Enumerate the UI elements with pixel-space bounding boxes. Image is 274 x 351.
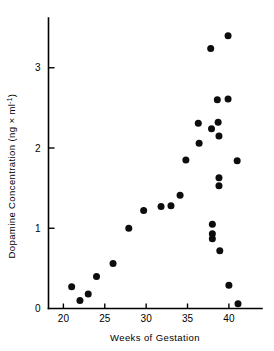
x-tick-label: 40 bbox=[223, 313, 235, 324]
data-point bbox=[140, 207, 147, 214]
axes-group bbox=[49, 18, 263, 309]
data-point bbox=[196, 140, 203, 147]
data-point bbox=[216, 247, 223, 254]
data-point bbox=[195, 120, 202, 127]
data-point bbox=[68, 283, 75, 290]
data-point bbox=[215, 132, 222, 139]
x-tick-label: 25 bbox=[99, 313, 111, 324]
data-point bbox=[158, 203, 165, 210]
data-point bbox=[125, 225, 132, 232]
data-point bbox=[209, 221, 216, 228]
data-point bbox=[235, 300, 242, 307]
x-tick-group: 2025303540 bbox=[58, 304, 235, 324]
y-tick-label: 2 bbox=[35, 143, 41, 154]
x-tick-label: 20 bbox=[58, 313, 70, 324]
y-axis-title-main: Dopamine Concentration (ng × ml bbox=[6, 104, 17, 259]
data-point bbox=[85, 291, 92, 298]
data-point bbox=[225, 96, 232, 103]
x-tick-label: 30 bbox=[141, 313, 153, 324]
data-point bbox=[225, 282, 232, 289]
data-point bbox=[234, 157, 241, 164]
data-point bbox=[208, 125, 215, 132]
chart-canvas: 2025303540 0123 Weeks of Gestation Dopam… bbox=[0, 0, 274, 351]
scatter-plot-figure: 2025303540 0123 Weeks of Gestation Dopam… bbox=[0, 0, 274, 351]
data-point bbox=[214, 96, 221, 103]
data-point bbox=[215, 174, 222, 181]
data-point bbox=[167, 202, 174, 209]
y-tick-label: 1 bbox=[35, 223, 41, 234]
y-tick-group: 0123 bbox=[35, 62, 55, 314]
data-point bbox=[110, 260, 117, 267]
data-point bbox=[177, 192, 184, 199]
x-axis-title: Weeks of Gestation bbox=[110, 332, 200, 343]
y-axis-title: Dopamine Concentration (ng × ml-1) bbox=[6, 94, 17, 259]
y-axis-title-close: ) bbox=[6, 94, 17, 98]
data-point bbox=[225, 32, 232, 39]
data-point bbox=[215, 119, 222, 126]
y-tick-label: 3 bbox=[35, 62, 41, 73]
data-point bbox=[76, 297, 83, 304]
y-tick-label: 0 bbox=[35, 303, 41, 314]
data-point bbox=[209, 235, 216, 242]
data-point bbox=[182, 157, 189, 164]
data-point bbox=[93, 273, 100, 280]
data-points-group bbox=[68, 32, 241, 307]
data-point bbox=[215, 182, 222, 189]
data-point bbox=[207, 45, 214, 52]
x-tick-label: 35 bbox=[182, 313, 194, 324]
